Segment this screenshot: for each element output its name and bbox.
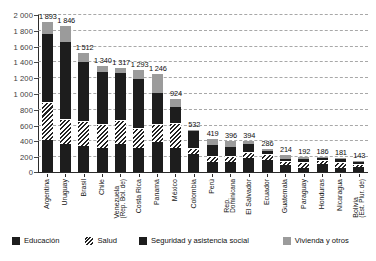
x-tick-mark bbox=[322, 174, 323, 177]
bar-stack[interactable]: 143 bbox=[353, 161, 364, 172]
y-tick-label: 1 200 bbox=[13, 74, 38, 83]
bar-stack[interactable]: 396 bbox=[225, 141, 236, 172]
bar-segment-educacion bbox=[262, 160, 273, 172]
x-label-cell: Rep.Dominicana bbox=[221, 174, 239, 234]
bar-stack[interactable]: 1 846 bbox=[60, 26, 71, 172]
x-axis-label: Panamá bbox=[153, 179, 160, 205]
x-axis-label: Rep.Dominicana bbox=[223, 179, 237, 213]
bar-value-label: 192 bbox=[298, 147, 310, 156]
x-axis-label: Guatemala bbox=[282, 179, 289, 213]
bar-stack[interactable]: 192 bbox=[298, 157, 309, 172]
x-tick-mark bbox=[139, 174, 140, 177]
x-axis-label: Costa Rica bbox=[135, 179, 142, 213]
bar-column[interactable]: 214 bbox=[276, 14, 294, 172]
x-label-cell: Brasil bbox=[75, 174, 93, 234]
bar-column[interactable]: 1 293 bbox=[130, 14, 148, 172]
bar-segment-vivienda bbox=[152, 74, 163, 93]
bar-segment-educacion bbox=[170, 148, 181, 172]
legend-label: Salud bbox=[97, 236, 116, 245]
y-tick-label: 200 bbox=[20, 153, 38, 162]
bar-segment-educacion bbox=[207, 162, 218, 172]
x-tick-mark bbox=[359, 174, 360, 177]
legend-item-seguridad[interactable]: Seguridad y asistencia social bbox=[139, 236, 249, 245]
y-tick-label: 2 000 bbox=[13, 11, 38, 20]
x-label-cell: Guatemala bbox=[276, 174, 294, 234]
legend-swatch-salud-icon bbox=[85, 237, 93, 245]
bar-segment-seguridad bbox=[152, 93, 163, 125]
x-axis-label: Nicaragua bbox=[337, 179, 344, 211]
bar-segment-salud bbox=[115, 121, 126, 144]
x-tick-mark bbox=[194, 174, 195, 177]
bar-segment-salud bbox=[97, 125, 108, 148]
bar-column[interactable]: 419 bbox=[203, 14, 221, 172]
bar-segment-educacion bbox=[317, 164, 328, 172]
x-axis-label-sub: (Rep. Bol. de) bbox=[121, 179, 128, 218]
bar-column[interactable]: 286 bbox=[258, 14, 276, 172]
x-axis-label: Honduras bbox=[318, 179, 325, 209]
bar-column[interactable]: 924 bbox=[166, 14, 184, 172]
x-tick-mark bbox=[120, 174, 121, 177]
bar-column[interactable]: 1 340 bbox=[93, 14, 111, 172]
bar-value-label: 1 512 bbox=[76, 43, 94, 52]
bar-column[interactable]: 186 bbox=[313, 14, 331, 172]
bar-value-label: 1 893 bbox=[39, 12, 57, 21]
bar-column[interactable]: 143 bbox=[350, 14, 368, 172]
bar-stack[interactable]: 214 bbox=[280, 155, 291, 172]
bar-column[interactable]: 532 bbox=[185, 14, 203, 172]
bar-value-label: 1 340 bbox=[94, 56, 112, 65]
bar-stack[interactable]: 286 bbox=[262, 149, 273, 172]
bar-stack[interactable]: 1 512 bbox=[78, 53, 89, 172]
bar-stack[interactable]: 419 bbox=[207, 139, 218, 172]
legend-swatch-vivienda-icon bbox=[283, 237, 291, 245]
bar-stack[interactable]: 1 293 bbox=[133, 70, 144, 172]
x-tick-mark bbox=[304, 174, 305, 177]
bar-value-label: 396 bbox=[225, 131, 237, 140]
bar-column[interactable]: 181 bbox=[331, 14, 349, 172]
bar-column[interactable]: 1 846 bbox=[56, 14, 74, 172]
bar-stack[interactable]: 181 bbox=[335, 158, 346, 172]
x-label-cell: México bbox=[166, 174, 184, 234]
x-axis-label: Venezuela(Rep. Bol. de) bbox=[113, 179, 127, 218]
bar-value-label: 1 246 bbox=[149, 64, 167, 73]
x-label-cell: Paraguay bbox=[295, 174, 313, 234]
x-axis-label: México bbox=[172, 179, 179, 201]
bar-segment-educacion bbox=[353, 167, 364, 172]
y-tick-label: 1 600 bbox=[13, 42, 38, 51]
chart-legend: EducaciónSaludSeguridad y asistencia soc… bbox=[12, 236, 370, 245]
bar-stack[interactable]: 1 246 bbox=[152, 74, 163, 172]
bar-stack[interactable]: 1 893 bbox=[42, 22, 53, 172]
bar-stack[interactable]: 1 317 bbox=[115, 68, 126, 172]
bar-column[interactable]: 1 893 bbox=[38, 14, 56, 172]
legend-item-vivienda[interactable]: Vivienda y otros bbox=[283, 236, 349, 245]
bar-stack[interactable]: 186 bbox=[317, 157, 328, 172]
bar-column[interactable]: 1 512 bbox=[75, 14, 93, 172]
bar-group: 1 8931 8461 5121 3401 3171 2931 24692453… bbox=[38, 14, 368, 172]
bar-stack[interactable]: 532 bbox=[188, 130, 199, 172]
bar-stack[interactable]: 1 340 bbox=[97, 66, 108, 172]
bar-column[interactable]: 1 317 bbox=[111, 14, 129, 172]
bar-stack[interactable]: 394 bbox=[243, 141, 254, 172]
bar-value-label: 532 bbox=[188, 120, 200, 129]
bar-stack[interactable]: 924 bbox=[170, 99, 181, 172]
x-axis-label: El Salvador bbox=[245, 179, 252, 215]
x-tick-mark bbox=[84, 174, 85, 177]
legend-item-educacion[interactable]: Educación bbox=[12, 236, 59, 245]
bar-segment-seguridad bbox=[78, 62, 89, 122]
bar-segment-vivienda bbox=[133, 70, 144, 79]
bar-column[interactable]: 192 bbox=[295, 14, 313, 172]
x-axis-label: Paraguay bbox=[300, 179, 307, 209]
bar-column[interactable]: 1 246 bbox=[148, 14, 166, 172]
bar-segment-vivienda bbox=[170, 99, 181, 107]
bar-segment-educacion bbox=[78, 146, 89, 172]
bar-value-label: 924 bbox=[170, 89, 182, 98]
x-tick-mark bbox=[102, 174, 103, 177]
bar-column[interactable]: 396 bbox=[221, 14, 239, 172]
x-label-cell: Uruguay bbox=[56, 174, 74, 234]
x-axis-label-sub: Dominicana bbox=[231, 179, 238, 213]
bar-segment-salud bbox=[133, 129, 144, 149]
x-axis-label: Bolivia(Est. Plur. de) bbox=[352, 179, 366, 218]
legend-item-salud[interactable]: Salud bbox=[85, 236, 116, 245]
x-axis-label: Chile bbox=[98, 179, 105, 195]
bar-column[interactable]: 394 bbox=[240, 14, 258, 172]
bar-segment-educacion bbox=[60, 144, 71, 172]
